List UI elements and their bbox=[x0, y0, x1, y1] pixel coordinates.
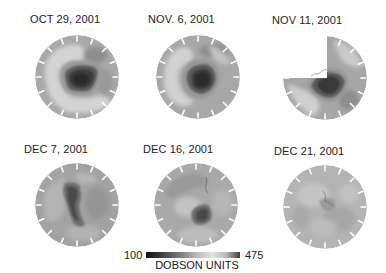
colorbar-gradient bbox=[146, 252, 240, 258]
panel-title-dec21: DEC 21, 2001 bbox=[274, 145, 344, 157]
ozone-map-nov11 bbox=[283, 36, 367, 120]
colorbar-units-label: DOBSON UNITS bbox=[0, 259, 386, 271]
panel-title-oct29: OCT 29, 2001 bbox=[30, 13, 100, 25]
panel-title-nov6: NOV. 6, 2001 bbox=[148, 13, 215, 25]
panel-title-dec7: DEC 7, 2001 bbox=[24, 143, 88, 155]
ozone-map-oct29 bbox=[35, 35, 119, 119]
panel-title-dec16: DEC 16, 2001 bbox=[143, 143, 213, 155]
ozone-map-dec7 bbox=[35, 163, 119, 247]
ozone-map-nov6 bbox=[156, 35, 240, 119]
ozone-map-dec16 bbox=[154, 163, 238, 247]
ozone-map-dec21 bbox=[283, 165, 367, 249]
panel-title-nov11: NOV 11, 2001 bbox=[272, 14, 342, 26]
